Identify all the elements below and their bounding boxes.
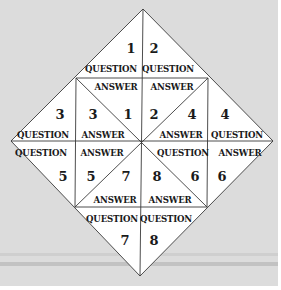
answer-label-top-left: ANSWER: [94, 82, 139, 92]
question-label-right-upper: QUESTION: [211, 130, 263, 140]
number-1-inner: 1: [123, 107, 132, 122]
answer-label-bottom-right: ANSWER: [148, 195, 193, 205]
answer-label-top-right: ANSWER: [150, 82, 195, 92]
answer-label-bottom-left: ANSWER: [93, 195, 138, 205]
number-5-inner: 5: [86, 169, 95, 184]
question-label-top-left: QUESTION: [85, 64, 137, 74]
number-4-inner: 4: [187, 107, 196, 122]
number-3-inner: 3: [88, 107, 97, 122]
question-label-inner-lower-right: QUESTION: [157, 148, 209, 158]
diagram-canvas: 1 2 QUESTION QUESTION ANSWER ANSWER 3 3 …: [0, 0, 281, 290]
number-7-bottom: 7: [120, 233, 129, 248]
number-6-right: 6: [217, 169, 226, 184]
number-8-bottom: 8: [149, 233, 158, 248]
answer-label-inner-upper-right: ANSWER: [159, 130, 204, 140]
question-label-left-lower: QUESTION: [15, 148, 67, 158]
question-label-top-right: QUESTION: [142, 64, 194, 74]
question-label-bottom-left: QUESTION: [86, 214, 138, 224]
number-6-inner: 6: [190, 169, 199, 184]
number-4-right: 4: [220, 107, 229, 122]
number-7-inner: 7: [121, 169, 130, 184]
question-label-bottom-right: QUESTION: [140, 214, 192, 224]
number-8-inner: 8: [152, 169, 161, 184]
answer-label-inner-upper-left: ANSWER: [81, 130, 126, 140]
fortune-teller-diagram: 1 2 QUESTION QUESTION ANSWER ANSWER 3 3 …: [0, 0, 281, 290]
number-1-top: 1: [126, 41, 135, 56]
number-3-left: 3: [55, 107, 64, 122]
number-2-inner: 2: [149, 107, 158, 122]
number-2-top: 2: [149, 41, 158, 56]
answer-label-right-lower: ANSWER: [218, 148, 263, 158]
question-label-left-upper: QUESTION: [17, 130, 69, 140]
number-5-left: 5: [58, 169, 67, 184]
answer-label-inner-lower-left: ANSWER: [80, 148, 125, 158]
